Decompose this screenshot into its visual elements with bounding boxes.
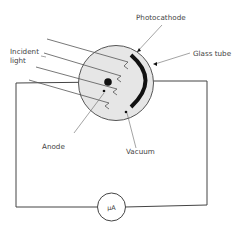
label-incident-light-2: light xyxy=(10,56,26,65)
glass-tube-leader xyxy=(155,53,190,64)
anode xyxy=(104,78,112,86)
photocell-diagram: Photocathode Glass tube Incident light A… xyxy=(0,0,237,227)
label-vacuum: Vacuum xyxy=(126,147,155,156)
vacuum-arrowhead xyxy=(125,111,128,114)
label-anode: Anode xyxy=(42,142,65,151)
label-photocathode: Photocathode xyxy=(136,13,186,22)
anode-arrowhead xyxy=(103,90,106,93)
label-glass-tube: Glass tube xyxy=(193,49,232,58)
microammeter-label: μA xyxy=(107,204,116,212)
incident-light-leader xyxy=(41,56,46,57)
photocathode-leader xyxy=(137,25,162,52)
label-incident-light-1: Incident xyxy=(10,47,39,56)
glass-tube xyxy=(79,46,154,121)
glass-tube-arrowhead xyxy=(153,62,157,66)
vacuum-leader xyxy=(127,113,136,148)
diagram-canvas: Photocathode Glass tube Incident light A… xyxy=(0,0,237,227)
